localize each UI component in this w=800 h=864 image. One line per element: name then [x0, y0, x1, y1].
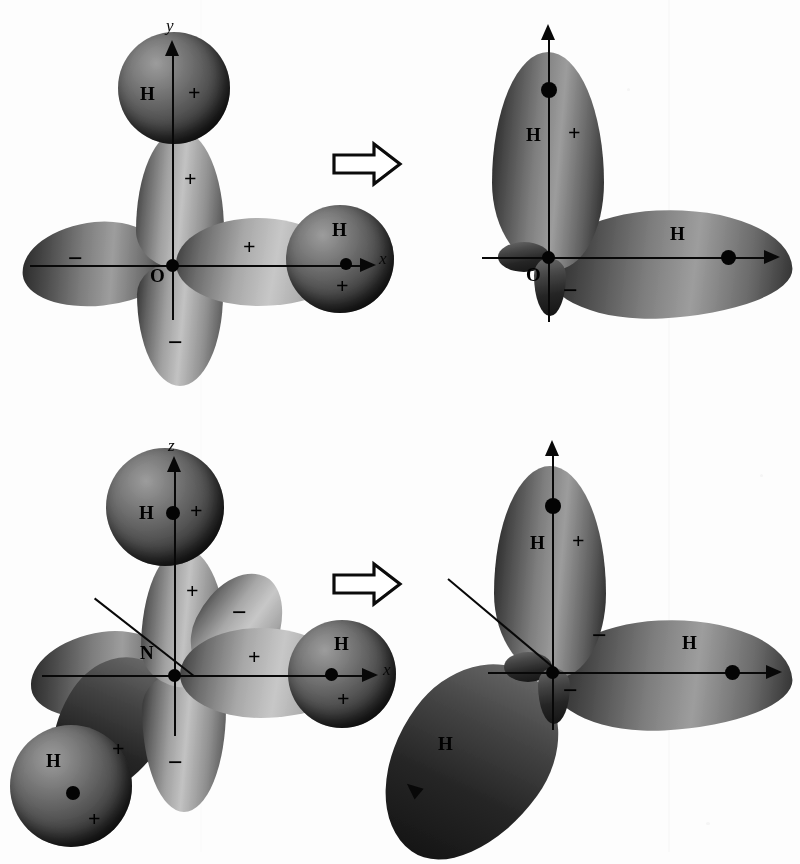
central-atom-label: O	[150, 265, 165, 287]
transform-arrow-ammonia	[330, 558, 404, 610]
sign-orbital-diagonal: −	[232, 600, 247, 626]
transform-arrow-water	[330, 138, 404, 190]
hydrogen-label-top: H	[139, 502, 154, 524]
hydrogen-label-right: H	[670, 223, 685, 245]
central-atom-label: N	[140, 642, 154, 664]
sign-hydrogen-lower-left: +	[88, 808, 101, 830]
hydrogen-label-right: H	[682, 632, 697, 654]
x-axis-label: x	[383, 660, 391, 680]
z-axis-line	[552, 452, 554, 730]
y-axis-line	[548, 36, 550, 322]
z-axis-arrowhead	[545, 440, 559, 456]
x-axis-arrowhead	[360, 258, 376, 272]
x-axis-label: x	[379, 249, 387, 269]
hydrogen-nucleus-dot-right	[340, 258, 352, 270]
z-axis-arrowhead	[167, 456, 181, 472]
panel-ammonia-after: H + H H − − N	[400, 420, 800, 852]
hydrogen-sphere-top	[106, 448, 224, 566]
hydrogen-nucleus-dot-lower-left	[66, 786, 80, 800]
x-axis-arrowhead	[766, 665, 782, 679]
sign-hybrid-small-a: −	[592, 623, 607, 649]
sign-orbital-right: +	[243, 236, 256, 258]
hydrogen-label-right: H	[334, 633, 349, 655]
hydrogen-label-lower-left: H	[438, 733, 453, 755]
hydrogen-nucleus-dot-top	[545, 498, 561, 514]
sign-hybrid-top: +	[572, 530, 585, 552]
sign-orbital-left: −	[68, 246, 83, 272]
sign-hydrogen-right: +	[337, 688, 350, 710]
panel-ammonia-before: z x H + H + H + + − + + − N	[0, 420, 400, 852]
panel-water-after: H + H − O	[400, 0, 800, 420]
y-axis-arrowhead	[165, 40, 179, 56]
y-axis-line	[172, 52, 174, 320]
z-axis-label: z	[168, 436, 175, 456]
hydrogen-label-right: H	[332, 219, 347, 241]
sign-orbital-right: +	[248, 646, 261, 668]
sign-orbital-top: +	[186, 580, 199, 602]
hydrogen-label-top: H	[526, 124, 541, 146]
central-nucleus-dot	[546, 666, 559, 679]
sign-hybrid-top: +	[568, 122, 581, 144]
sign-hybrid-small-b: −	[563, 678, 578, 704]
x-axis-arrowhead	[764, 250, 780, 264]
hydrogen-nucleus-dot-top	[541, 82, 557, 98]
sign-hydrogen-top: +	[190, 500, 203, 522]
sign-orbital-top: +	[184, 168, 197, 190]
hydrogen-nucleus-dot-right	[725, 665, 740, 680]
sign-orbital-lower-left: +	[112, 738, 125, 760]
sign-hybrid-small: −	[563, 278, 578, 304]
central-nucleus-dot	[168, 669, 181, 682]
hydrogen-label-top: H	[530, 532, 545, 554]
central-nucleus-dot	[542, 251, 555, 264]
y-axis-label: y	[166, 16, 174, 36]
hydrogen-nucleus-dot-right	[721, 250, 736, 265]
central-nucleus-dot	[166, 259, 179, 272]
x-axis-line	[42, 675, 372, 677]
central-atom-label: O	[526, 264, 541, 286]
hydrogen-nucleus-dot-top	[166, 506, 180, 520]
y-axis-arrowhead	[541, 24, 555, 40]
hydrogen-label-top: H	[140, 83, 155, 105]
panel-water-before: y x H + H + + + − − O	[0, 0, 400, 420]
sign-hydrogen-right: +	[336, 275, 349, 297]
hydrogen-label-lower-left: H	[46, 750, 61, 772]
sign-orbital-bottom: −	[168, 750, 183, 776]
sign-orbital-bottom: −	[168, 330, 183, 356]
x-axis-arrowhead	[362, 668, 378, 682]
hydrogen-nucleus-dot-right	[325, 668, 338, 681]
sign-hydrogen-top: +	[188, 82, 201, 104]
